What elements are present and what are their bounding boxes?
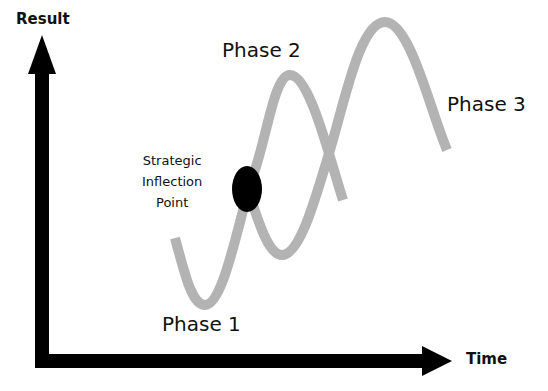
x-axis-line — [35, 354, 425, 368]
x-axis-label: Time — [466, 350, 507, 368]
inflection-point-marker — [232, 166, 262, 212]
y-axis-arrow-icon — [28, 35, 56, 74]
y-axis-line — [35, 72, 49, 368]
y-axis-label: Result — [16, 10, 70, 28]
phase-3-label: Phase 3 — [447, 92, 526, 116]
inflection-label-line3: Point — [142, 192, 202, 213]
inflection-label-line1: Strategic — [142, 150, 202, 171]
x-axis-arrow-icon — [422, 346, 452, 376]
inflection-label-line2: Inflection — [142, 171, 202, 192]
phase-1-label: Phase 1 — [162, 312, 241, 336]
phase-2-label: Phase 2 — [222, 38, 301, 62]
inflection-point-label: Strategic Inflection Point — [142, 150, 202, 213]
